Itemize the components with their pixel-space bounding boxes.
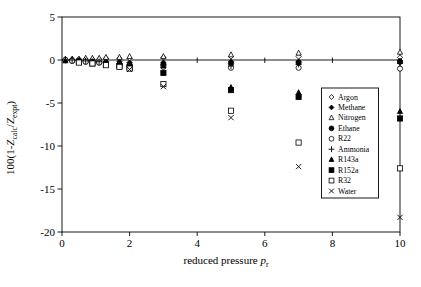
data-point-marker xyxy=(76,60,81,65)
legend-label: Methane xyxy=(338,103,366,112)
legend-label: Ethane xyxy=(338,124,360,133)
x-tick-label: 0 xyxy=(59,237,65,249)
data-point-marker xyxy=(228,52,233,57)
x-tick-label: 10 xyxy=(395,237,407,249)
legend: ArgonMethaneNitrogenEthaneR22AmmoniaR143… xyxy=(322,88,379,198)
x-tick-label: 2 xyxy=(127,237,133,249)
figure: 50-5-10-15-200246810ArgonMethaneNitrogen… xyxy=(0,0,421,287)
data-point-marker xyxy=(90,61,95,66)
data-point-marker xyxy=(117,54,122,59)
data-point-marker xyxy=(127,54,132,59)
series-nitrogen xyxy=(63,49,403,61)
legend-label: Argon xyxy=(338,93,358,102)
data-point-marker xyxy=(161,54,166,59)
data-point-marker xyxy=(329,168,334,173)
data-point-marker xyxy=(329,178,334,183)
legend-label: Water xyxy=(338,187,357,196)
data-point-marker xyxy=(103,63,108,68)
x-tick-label: 4 xyxy=(194,237,200,249)
y-axis-title: 100(1-Zcalc/Zexpt) xyxy=(4,101,19,175)
data-point-marker xyxy=(397,116,402,121)
data-point-marker xyxy=(161,81,166,86)
x-axis-title: reduced pressure pr xyxy=(183,254,268,269)
data-point-marker xyxy=(329,136,334,141)
y-tick-label: 0 xyxy=(50,54,56,66)
data-point-marker xyxy=(228,108,233,113)
legend-label: Nitrogen xyxy=(338,113,366,122)
data-point-marker xyxy=(397,49,402,54)
data-point-marker xyxy=(228,88,233,93)
y-tick-label: 5 xyxy=(50,11,56,23)
data-point-marker xyxy=(397,66,402,71)
x-tick-label: 6 xyxy=(262,237,268,249)
legend-label: Ammonia xyxy=(338,145,370,154)
x-tick-label: 8 xyxy=(330,237,336,249)
legend-label: R22 xyxy=(338,134,351,143)
scatter-chart: 50-5-10-15-200246810ArgonMethaneNitrogen… xyxy=(0,0,421,287)
data-point-marker xyxy=(161,70,166,75)
data-point-marker xyxy=(329,126,334,131)
y-tick-label: -15 xyxy=(40,183,55,195)
y-tick-label: -20 xyxy=(40,226,55,238)
data-point-marker xyxy=(296,94,301,99)
y-tick-label: -10 xyxy=(40,140,55,152)
data-point-marker xyxy=(296,90,301,95)
y-tick-label: -5 xyxy=(46,97,56,109)
data-point-marker xyxy=(296,50,301,55)
data-point-marker xyxy=(397,166,402,171)
legend-label: R32 xyxy=(338,176,351,185)
data-point-marker xyxy=(117,64,122,69)
data-point-marker xyxy=(296,140,301,145)
data-point-marker xyxy=(397,109,402,114)
legend-label: R152a xyxy=(338,166,359,175)
legend-label: R143a xyxy=(338,155,359,164)
data-point-marker xyxy=(127,66,132,71)
data-point-marker xyxy=(103,54,108,59)
